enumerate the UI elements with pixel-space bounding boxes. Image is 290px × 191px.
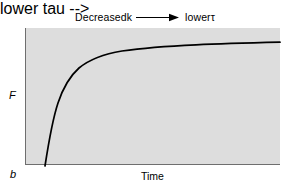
x-axis-label: Time [25,170,280,183]
annotation-suffix-text: lower [185,11,211,24]
decay-curve-figure: lower tau --> Decreased k lower τ F Time… [0,0,290,191]
annotation-symbol-k: k [127,11,132,24]
annotation-symbol-tau: τ [211,11,215,24]
annotation-prefix-text: Decreased [75,11,127,24]
annotation-caption: Decreased k lower τ [0,9,290,26]
right-arrow-icon [136,8,180,26]
plot-area [25,28,280,165]
origin-label: b [10,168,16,181]
y-axis-label: F [9,89,16,102]
